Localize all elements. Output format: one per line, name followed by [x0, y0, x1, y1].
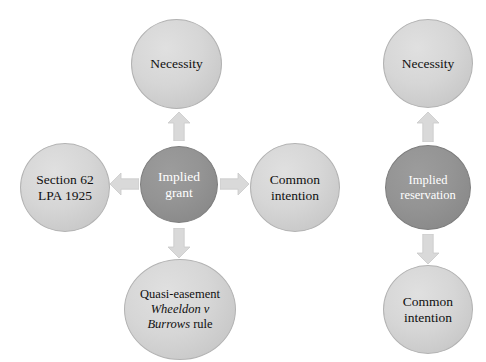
node-implied-reservation-label: Implied reservation — [386, 173, 470, 203]
node-common-intention-grant: Common intention — [250, 143, 340, 232]
arrow-grant-to-necessity — [167, 112, 191, 141]
node-necessity-grant-label: Necessity — [132, 56, 221, 72]
node-common-intention-grant-label: Common intention — [251, 172, 339, 204]
node-section-62-lpa-1925-label: Section 62 LPA 1925 — [21, 172, 109, 204]
node-necessity-grant: Necessity — [131, 19, 222, 109]
node-quasi-easement-label: Quasi-easement Wheeldon v Burrows rule — [125, 287, 235, 331]
node-implied-reservation: Implied reservation — [385, 145, 471, 230]
node-necessity-reservation: Necessity — [383, 19, 473, 108]
node-necessity-reservation-label: Necessity — [384, 56, 472, 72]
node-common-intention-reservation: Common intention — [383, 265, 473, 354]
arrow-grant-to-quasi-easement — [167, 228, 191, 258]
arrow-reservation-to-necessity — [416, 112, 440, 142]
node-implied-grant-label: Implied grant — [141, 169, 217, 201]
diagram-canvas: Necessity Section 62 LPA 1925 Implied gr… — [0, 0, 486, 362]
arrow-reservation-to-common-intention — [416, 234, 440, 264]
arrow-grant-to-common-intention — [220, 172, 249, 196]
node-section-62-lpa-1925: Section 62 LPA 1925 — [20, 143, 110, 232]
node-implied-grant: Implied grant — [140, 146, 218, 223]
node-quasi-easement-wheeldon-v-burrows: Quasi-easement Wheeldon v Burrows rule — [124, 259, 236, 360]
arrow-grant-to-section-62 — [110, 172, 139, 196]
node-common-intention-reservation-label: Common intention — [384, 294, 472, 326]
